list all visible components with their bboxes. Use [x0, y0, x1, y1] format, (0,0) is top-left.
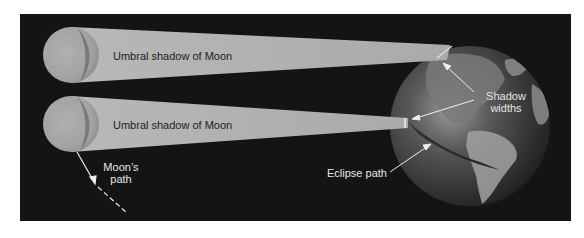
- label-moons-path-line2: path: [97, 173, 145, 185]
- label-eclipse-path: Eclipse path: [327, 167, 387, 179]
- label-shadow-widths-line1: Shadow: [477, 90, 535, 102]
- label-shadow-widths-line2: widths: [477, 102, 535, 114]
- eclipse-diagram: [0, 0, 584, 238]
- moon-bottom: [43, 96, 99, 152]
- label-moons-path: Moon’s path: [97, 161, 145, 185]
- label-moons-path-line1: Moon’s: [97, 161, 145, 173]
- earth: [390, 46, 550, 206]
- label-umbral-shadow-bottom: Umbral shadow of Moon: [113, 119, 232, 131]
- label-umbral-shadow-top: Umbral shadow of Moon: [113, 50, 232, 62]
- label-shadow-widths: Shadow widths: [477, 90, 535, 114]
- moon-top: [43, 27, 99, 83]
